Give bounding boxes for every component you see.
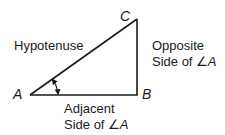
adjacent-label-prefix: Side of: [64, 117, 108, 132]
adjacent-side-label: Adjacent Side of ∠A: [64, 102, 128, 132]
adjacent-angle-name: A: [120, 117, 129, 132]
hypotenuse-label: Hypotenuse: [14, 39, 83, 53]
opposite-label-line1: Opposite: [152, 39, 216, 53]
opposite-label-line2: Side of ∠A: [152, 55, 216, 69]
angle-a-arc-icon: [53, 80, 59, 95]
angle-symbol-icon: ∠: [196, 54, 208, 69]
angle-symbol-icon: ∠: [108, 117, 120, 132]
opposite-side-label: Opposite Side of ∠A: [152, 39, 216, 69]
hypotenuse-line: [30, 19, 137, 95]
vertex-label-a: A: [13, 87, 22, 101]
adjacent-label-line1: Adjacent: [64, 102, 128, 116]
opposite-angle-name: A: [208, 54, 217, 69]
adjacent-label-line2: Side of ∠A: [64, 118, 128, 132]
vertex-label-b: B: [142, 87, 151, 101]
vertex-label-c: C: [120, 9, 130, 23]
opposite-label-prefix: Side of: [152, 54, 196, 69]
